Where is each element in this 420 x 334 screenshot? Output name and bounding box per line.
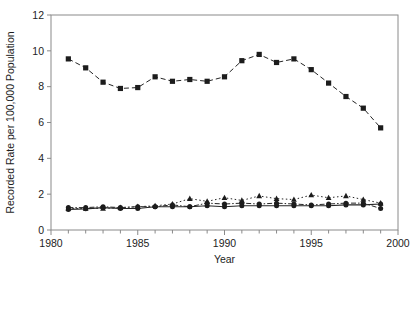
y-tick-label: 8 <box>38 80 44 92</box>
data-point <box>66 56 71 61</box>
data-point <box>170 79 175 84</box>
data-point <box>135 85 140 90</box>
y-tick-label: 10 <box>32 45 44 57</box>
data-point <box>361 106 366 111</box>
x-tick-label: 1980 <box>39 237 63 249</box>
x-tick-label: 1995 <box>300 237 324 249</box>
line-chart: 02468101219801985199019952000YearRecorde… <box>0 0 420 334</box>
x-tick-label: 1990 <box>213 237 237 249</box>
y-tick-label: 2 <box>38 188 44 200</box>
data-point <box>326 202 331 207</box>
data-point <box>309 67 314 72</box>
y-tick-label: 12 <box>32 9 44 21</box>
data-point <box>291 202 296 207</box>
y-tick-label: 0 <box>38 224 44 236</box>
y-axis-title: Recorded Rate per 100,000 Population <box>4 31 16 213</box>
data-point <box>274 201 279 206</box>
data-point <box>378 206 383 211</box>
data-point <box>222 202 227 207</box>
data-point <box>291 56 296 61</box>
data-point <box>100 80 105 85</box>
x-axis: 19801985199019952000 <box>39 230 410 249</box>
data-point <box>326 80 331 85</box>
data-point <box>187 77 192 82</box>
y-axis: 024681012 <box>32 9 51 236</box>
data-point <box>187 204 192 209</box>
data-point <box>274 60 279 65</box>
data-point <box>118 86 123 91</box>
data-point <box>153 74 158 79</box>
data-point <box>205 79 210 84</box>
y-tick-label: 4 <box>38 152 44 164</box>
x-axis-title: Year <box>214 253 236 265</box>
data-point <box>257 52 262 57</box>
data-point <box>378 125 383 130</box>
y-tick-label: 6 <box>38 116 44 128</box>
data-point <box>343 201 348 206</box>
chart-figure: 02468101219801985199019952000YearRecorde… <box>0 0 420 334</box>
data-point <box>222 74 227 79</box>
data-point <box>309 202 314 207</box>
data-point <box>83 65 88 70</box>
data-point <box>343 94 348 99</box>
x-tick-label: 1985 <box>126 237 150 249</box>
data-point <box>239 58 244 63</box>
data-point <box>257 202 262 207</box>
x-tick-label: 2000 <box>386 237 410 249</box>
